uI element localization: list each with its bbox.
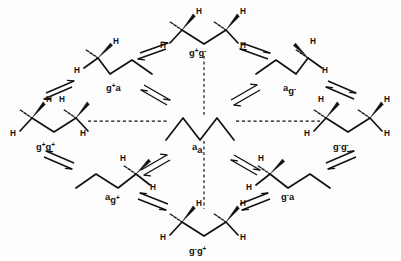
hash-bond-top-right	[214, 22, 226, 30]
conformer-label-gminus-gminus: g-g-	[333, 141, 349, 152]
h-label-bottom-1: H	[196, 199, 202, 208]
wedge-bond-right-2	[370, 102, 383, 118]
conformer-gplus-gminus: H H H H g+g-	[160, 7, 246, 58]
conformer-gminus-gplus: H H H H g-g+	[160, 199, 246, 256]
h-label-lr-1: H	[258, 154, 264, 163]
conformer-a-gplus: H H ag+	[76, 154, 156, 205]
h-label-bottom-3: H	[160, 233, 166, 242]
wedge-bond-top-right	[226, 14, 239, 30]
bond-bottom-right-H	[226, 222, 238, 235]
bond-ul-H	[84, 58, 98, 68]
h-label-right-2: H	[384, 95, 390, 104]
bond-lr-H	[256, 174, 270, 185]
hash-bond-bottom-right	[214, 214, 226, 222]
bond-top-left-H	[170, 30, 182, 43]
carbon-backbone-top	[182, 30, 226, 44]
conformer-label-gplus-gminus: g+g-	[189, 47, 206, 58]
hash-bond-right-2	[358, 110, 370, 118]
bond-top-right-H	[226, 30, 238, 43]
conformer-gminus-a: H H g-a	[246, 154, 330, 202]
h-label-ll-2: H	[150, 183, 156, 192]
hash-bond-left-2	[64, 110, 76, 118]
conformer-label-gminus-a: g-a	[281, 191, 295, 202]
conformer-label-gplus-a: g+a	[106, 82, 121, 93]
conformer-gminus-gminus: H H H H g-g-	[304, 95, 390, 152]
bond-right-outer-H	[370, 118, 382, 131]
equilibrium-arrow-a-gminus-to-gminus-gminus	[326, 81, 356, 99]
hash-bond-left-1	[20, 110, 32, 118]
conformer-gplus-a: H H g+a	[74, 37, 152, 93]
h-label-right-1: H	[318, 95, 324, 104]
h-label-left-3: H	[10, 129, 16, 138]
h-label-bottom-4: H	[240, 233, 246, 242]
diagram-canvas: aa H H H H g+g- H H H H g-g+	[0, 0, 401, 261]
h-label-top-1: H	[196, 7, 202, 16]
conformer-label-a-gplus: ag+	[105, 191, 120, 205]
equilibrium-arrow-a-gplus-to-gminus-gplus	[138, 193, 168, 210]
h-label-lr-2: H	[246, 183, 252, 192]
carbon-backbone-bottom	[182, 222, 226, 236]
h-label-top-2: H	[240, 7, 246, 16]
h-label-ll-1: H	[120, 154, 126, 163]
wedge-bond-right-1	[326, 102, 339, 118]
wedge-bond-bottom-left	[182, 206, 195, 222]
carbon-backbone-upper-right	[256, 58, 308, 74]
equilibrium-arrow-gminus-gminus-to-gminus-a	[326, 151, 356, 169]
carbon-backbone-lower-right	[270, 174, 330, 188]
hash-bond-right-1	[314, 110, 326, 118]
hash-bond-lower-left	[124, 166, 136, 174]
bond-ur-H	[308, 58, 322, 68]
carbon-backbone-right	[326, 118, 370, 132]
hash-bond-bottom-left	[170, 214, 182, 222]
h-label-right-3: H	[304, 129, 310, 138]
carbon-backbone-upper-left	[98, 58, 152, 74]
bond-bottom-left-H	[170, 222, 182, 235]
wedge-bond-left-1	[32, 102, 45, 118]
h-label-ul-1: H	[113, 37, 119, 46]
equilibrium-arrow-aa-to-gminus-a	[231, 155, 260, 175]
conformer-aa: aa	[166, 118, 234, 155]
bond-left-outer-H	[20, 118, 32, 131]
equilibrium-arrow-gplus-a-to-gplus-gminus	[138, 42, 168, 60]
wedge-bond-lower-right	[270, 159, 285, 174]
carbon-backbone-left	[32, 118, 76, 132]
hash-bond-upper-left	[86, 50, 98, 58]
h-label-left-4: H	[80, 129, 86, 138]
wedge-bond-top-left	[182, 14, 195, 30]
h-label-ur-2: H	[322, 66, 328, 75]
conformer-label-aa: aa	[192, 141, 203, 155]
wedge-bond-upper-left	[98, 43, 113, 58]
conformer-a-gminus: H H ag-	[256, 37, 328, 96]
conformer-gplus-gplus: H H H H g+g+	[10, 95, 89, 152]
h-label-ur-1: H	[310, 37, 316, 46]
equilibrium-arrow-gplus-gplus-to-a-gplus	[44, 151, 74, 169]
h-label-right-4: H	[384, 129, 390, 138]
conformer-label-a-gminus: ag-	[283, 82, 296, 96]
carbon-backbone-aa	[166, 118, 234, 140]
wedge-bond-bottom-right	[226, 206, 239, 222]
equilibrium-arrow-gplus-a-to-aa	[141, 85, 170, 105]
conformer-label-gplus-gplus: g+g+	[36, 141, 55, 152]
bond-right-inner-H	[314, 118, 326, 131]
h-label-left-2: H	[59, 95, 65, 104]
wedge-bond-left-2	[76, 102, 89, 118]
equilibrium-arrow-aa-to-a-gminus	[231, 84, 260, 106]
hash-bond-top-left	[170, 22, 182, 30]
carbon-backbone-lower-left	[76, 174, 136, 188]
conformer-label-gminus-gplus: g-g+	[189, 245, 207, 256]
h-label-ul-2: H	[74, 66, 80, 75]
conformational-equilibrium-diagram: aa H H H H g+g- H H H H g-g+	[0, 0, 401, 261]
